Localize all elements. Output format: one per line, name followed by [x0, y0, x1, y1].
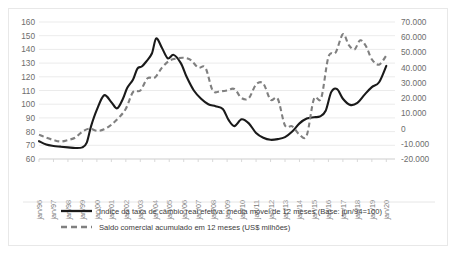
right-axis-tick-label: 40.000 — [401, 63, 427, 73]
left-axis-tick-label: 130 — [21, 58, 35, 68]
left-axis-tick-label: 80 — [26, 127, 36, 137]
line-chart: 60708090100110120130140150160 -20.000-10… — [9, 9, 449, 247]
legend-entry-label: Índice da taxa de câmbio real efetiva: m… — [99, 207, 383, 216]
left-axis-tick-label: 60 — [26, 154, 36, 164]
right-axis-tick-label: 0 — [401, 124, 406, 134]
right-axis-tick-label: -10.000 — [401, 139, 430, 149]
right-axis-tick-label: 70.000 — [401, 17, 427, 27]
right-axis-tick-label: 10.000 — [401, 108, 427, 118]
left-axis-tick-label: 90 — [26, 113, 36, 123]
right-axis-tick-label: -20.000 — [401, 154, 430, 164]
gridlines-group — [39, 22, 395, 159]
left-axis-tick-label: 140 — [21, 44, 35, 54]
left-axis-tick-label: 110 — [22, 86, 36, 96]
left-axis-tick-label: 120 — [21, 72, 35, 82]
right-axis-tick-label: 50.000 — [401, 47, 427, 57]
x-axis-tick-label: jan/96 — [35, 200, 44, 221]
chart-plot-area: 60708090100110120130140150160 -20.000-10… — [9, 9, 449, 247]
x-axis-tick-label: jan/97 — [49, 200, 58, 221]
chart-card: 60708090100110120130140150160 -20.000-10… — [8, 8, 448, 246]
right-axis-tick-label: 30.000 — [401, 78, 427, 88]
data-series-group — [39, 34, 386, 148]
right-axis-tick-label: 20.000 — [401, 93, 427, 103]
left-axis-tick-label: 150 — [21, 31, 35, 41]
left-axis-tick-labels: 60708090100110120130140150160 — [21, 17, 35, 164]
right-axis-tick-labels: -20.000-10.000010.00020.00030.00040.0005… — [401, 17, 430, 164]
left-axis-tick-label: 100 — [21, 99, 35, 109]
left-axis-tick-label: 160 — [21, 17, 35, 27]
right-axis-tick-label: 60.000 — [401, 32, 427, 42]
legend-entry-label: Saldo comercial acumulado em 12 meses (U… — [99, 223, 291, 232]
left-axis-tick-label: 70 — [26, 140, 36, 150]
x-axis-tick-label: jan/20 — [382, 200, 391, 221]
